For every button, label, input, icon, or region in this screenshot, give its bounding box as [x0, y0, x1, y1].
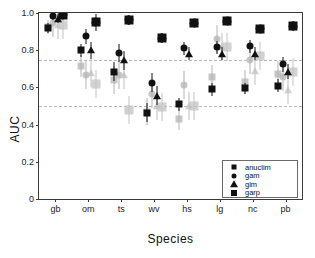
- legend-marker-square-icon: [232, 165, 237, 170]
- datapoint-garp-wv: [157, 34, 166, 43]
- datapoint-anuclim-hs: [176, 101, 183, 108]
- legend-marker-triangle-icon: [230, 180, 238, 187]
- legend-marker-circle-icon: [223, 172, 245, 181]
- x-tick-mark: [187, 199, 188, 202]
- legend-item-anuclim[interactable]: anuclim: [223, 163, 297, 172]
- x-tick-mark: [88, 199, 89, 202]
- datapoint-anuclim-pb: [275, 82, 282, 89]
- datapoint-garp-faded-hs: [190, 102, 199, 111]
- x-axis-label: Species: [38, 232, 303, 246]
- x-tick-mark: [55, 199, 56, 202]
- datapoint-garp-om: [91, 18, 100, 27]
- legend-marker-circle-icon: [232, 173, 237, 178]
- datapoint-glm-om: [87, 46, 95, 53]
- legend-marker-triangle-icon: [223, 180, 245, 189]
- x-tick-label-gb: gb: [50, 205, 60, 214]
- datapoint-glm-ts: [120, 57, 128, 64]
- x-tick-mark: [154, 199, 155, 202]
- datapoint-anuclim-gb: [44, 24, 51, 31]
- datapoint-anuclim-faded-lg: [209, 74, 216, 81]
- x-tick-label-om: om: [82, 205, 95, 214]
- datapoint-anuclim-wv: [143, 109, 150, 116]
- datapoint-garp-gb: [58, 13, 67, 19]
- x-tick-label-lg: lg: [216, 205, 223, 214]
- legend-item-glm[interactable]: glm: [223, 180, 297, 189]
- datapoint-glm-nc: [251, 50, 259, 57]
- y-tick-label: 0: [29, 195, 34, 204]
- datapoint-anuclim-lg: [209, 86, 216, 93]
- datapoint-anuclim-faded-om: [77, 63, 84, 70]
- legend-marker-plus-icon: [231, 190, 237, 196]
- datapoint-anuclim-ts: [110, 68, 117, 75]
- datapoint-garp-faded-om: [91, 79, 100, 88]
- datapoint-gam-wv: [148, 79, 155, 86]
- y-tick-label: 0.2: [21, 157, 34, 166]
- legend: anuclimgamglmgarp: [222, 160, 298, 198]
- datapoint-garp-faded-ts: [124, 105, 133, 114]
- datapoint-anuclim-faded-hs: [176, 116, 183, 123]
- x-tick-label-nc: nc: [248, 205, 258, 214]
- reference-line-0-5: [39, 106, 302, 107]
- datapoint-garp-faded-wv: [157, 102, 166, 111]
- x-tick-mark: [286, 199, 287, 202]
- datapoint-glm-faded-ts: [120, 71, 128, 78]
- x-tick-label-hs: hs: [182, 205, 192, 214]
- legend-label-glm: glm: [245, 181, 257, 189]
- x-tick-label-wv: wv: [149, 205, 160, 214]
- legend-label-anuclim: anuclim: [245, 164, 271, 172]
- datapoint-anuclim-nc: [242, 85, 249, 92]
- datapoint-garp-hs: [190, 19, 199, 28]
- y-tick-label: 1.0: [21, 9, 34, 18]
- legend-label-gam: gam: [245, 172, 260, 180]
- x-tick-label-ts: ts: [118, 205, 125, 214]
- x-tick-mark: [121, 199, 122, 202]
- datapoint-gam-ts: [115, 49, 122, 56]
- x-tick-label-pb: pb: [281, 205, 291, 214]
- datapoint-glm-hs: [185, 50, 193, 57]
- datapoint-garp-nc: [256, 24, 265, 33]
- datapoint-anuclim-om: [77, 47, 84, 54]
- x-tick-mark: [253, 199, 254, 202]
- datapoint-gam-faded-hs: [181, 81, 188, 88]
- auc-by-species-chart: AUC Species 00.20.40.60.81.0 gbomtswvhsl…: [0, 0, 315, 258]
- y-axis-label: AUC: [8, 116, 22, 143]
- legend-label-garp: garp: [245, 189, 260, 197]
- datapoint-garp-ts: [124, 15, 133, 24]
- y-tick-mark: [36, 199, 39, 200]
- y-tick-label: 0.6: [21, 83, 34, 92]
- datapoint-glm-faded-nc: [251, 67, 259, 74]
- datapoint-glm-lg: [218, 50, 226, 57]
- datapoint-garp-faded-gb: [58, 21, 67, 30]
- y-tick-label: 0.8: [21, 46, 34, 55]
- datapoint-glm-pb: [284, 68, 292, 75]
- datapoint-gam-om: [82, 33, 89, 40]
- legend-marker-plus-icon: [223, 189, 245, 198]
- datapoint-glm-faded-pb: [284, 86, 292, 93]
- datapoint-gam-pb: [280, 61, 287, 68]
- legend-item-gam[interactable]: gam: [223, 172, 297, 181]
- datapoint-gam-nc: [247, 43, 254, 50]
- datapoint-glm-wv: [153, 92, 161, 99]
- x-tick-mark: [220, 199, 221, 202]
- datapoint-garp-pb: [289, 22, 298, 31]
- y-tick-label: 0.4: [21, 120, 34, 129]
- legend-marker-square-icon: [223, 163, 245, 172]
- datapoint-garp-lg: [223, 17, 232, 26]
- datapoint-glm-faded-om: [87, 70, 95, 77]
- legend-item-garp[interactable]: garp: [223, 189, 297, 198]
